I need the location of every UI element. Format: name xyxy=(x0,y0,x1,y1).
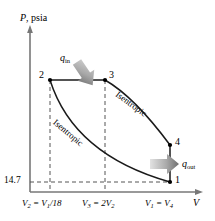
v3-subscript: 3 xyxy=(88,202,91,209)
state-point-2 xyxy=(48,78,52,82)
state-label-2: 2 xyxy=(39,70,44,80)
q-in-arrow-icon xyxy=(69,56,101,90)
pv-diagram-figure: P, psia V 14.7 2 3 4 1 qin qout Isentrop… xyxy=(0,0,215,221)
x-axis-label: V xyxy=(193,198,199,208)
x-tick-label-v3: V3 = 2V2 xyxy=(82,199,115,208)
q-out-arrow-icon xyxy=(150,154,179,174)
v2-subscript: 2 xyxy=(28,202,31,209)
v3-subscript-2: 2 xyxy=(111,202,114,209)
x-tick-label-v1: V1 = V4 xyxy=(145,199,173,208)
y-axis-unit: , psia xyxy=(26,12,47,23)
diagram-canvas xyxy=(0,0,215,221)
v1-rest: = V xyxy=(154,198,170,208)
v3-symbol: V xyxy=(82,198,88,208)
v3-rest: = 2V xyxy=(91,198,112,208)
v1-symbol: V xyxy=(145,198,151,208)
state-label-4: 4 xyxy=(175,137,180,147)
v2-subscript-2: 1 xyxy=(47,202,50,209)
y-tick-label-14-7: 14.7 xyxy=(4,176,21,186)
v2-symbol: V xyxy=(22,198,28,208)
v1-subscript: 1 xyxy=(151,202,154,209)
q-in-label: qin xyxy=(60,53,70,63)
state-point-1 xyxy=(168,180,172,184)
state-label-1: 1 xyxy=(175,175,180,185)
state-point-3 xyxy=(103,78,107,82)
q-in-subscript: in xyxy=(65,57,70,64)
state-point-4 xyxy=(168,143,172,147)
v1-subscript-2: 4 xyxy=(170,202,173,209)
x-tick-label-v2: V2 = V1/18 xyxy=(22,199,62,208)
y-axis xyxy=(27,25,33,192)
q-out-label: qout xyxy=(182,159,195,169)
y-axis-label: P, psia xyxy=(20,13,47,23)
state-label-3: 3 xyxy=(109,70,114,80)
v2-tail: /18 xyxy=(50,198,62,208)
q-out-subscript: out xyxy=(187,163,195,170)
v2-rest: = V xyxy=(31,198,47,208)
x-axis xyxy=(30,189,203,195)
